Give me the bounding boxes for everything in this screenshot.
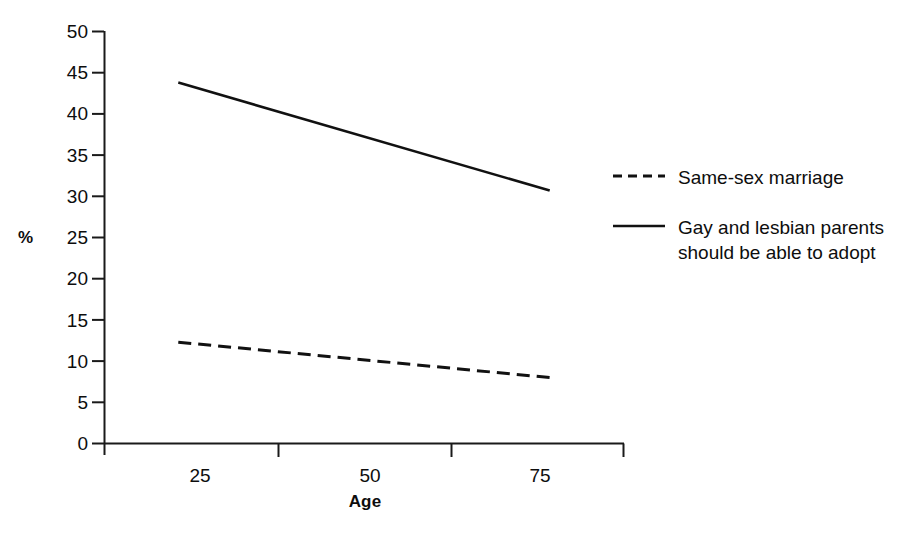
y-tick-label-45: 45 <box>28 63 88 82</box>
legend-label-same-sex-marriage: Same-sex marriage <box>678 166 844 190</box>
y-tick-label-0: 0 <box>28 434 88 453</box>
x-axis-ticks <box>279 444 624 458</box>
y-tick-label-30: 30 <box>28 187 88 206</box>
y-tick-label-25: 25 <box>28 228 88 247</box>
y-tick-label-40: 40 <box>28 104 88 123</box>
chart-figure: 50 45 40 35 30 25 20 15 10 5 0 25 50 75 … <box>0 0 902 538</box>
legend-label-adoption: Gay and lesbian parents should be able t… <box>678 216 890 265</box>
x-axis-title: Age <box>0 492 730 512</box>
x-tick-label-50: 50 <box>340 466 400 485</box>
y-tick-label-5: 5 <box>28 393 88 412</box>
x-tick-label-75: 75 <box>510 466 570 485</box>
dashed-line-swatch <box>612 166 666 186</box>
chart-legend: Same-sex marriage Gay and lesbian parent… <box>612 166 900 291</box>
y-tick-label-20: 20 <box>28 269 88 288</box>
legend-entry-adoption: Gay and lesbian parents should be able t… <box>612 216 900 265</box>
x-tick-label-25: 25 <box>170 466 230 485</box>
series-line-adoption <box>178 83 549 191</box>
y-tick-label-15: 15 <box>28 311 88 330</box>
y-tick-label-10: 10 <box>28 352 88 371</box>
y-tick-label-50: 50 <box>28 22 88 41</box>
solid-line-swatch <box>612 216 666 236</box>
legend-entry-same-sex-marriage: Same-sex marriage <box>612 166 900 190</box>
y-tick-label-35: 35 <box>28 146 88 165</box>
series-line-marriage <box>178 342 549 377</box>
y-axis-ticks <box>92 32 104 444</box>
y-axis-title: % <box>18 228 33 248</box>
